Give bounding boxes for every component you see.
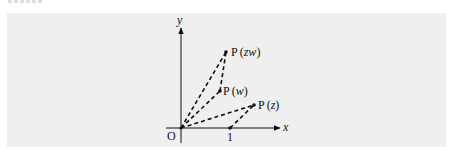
label-pzw: P(zw) bbox=[231, 45, 260, 59]
x-axis-label: x bbox=[282, 120, 289, 134]
point-pw bbox=[218, 89, 222, 93]
point-pzw bbox=[224, 50, 228, 54]
origin-label: O bbox=[167, 129, 176, 143]
point-origin bbox=[179, 126, 182, 129]
y-axis-label: y bbox=[176, 13, 183, 27]
label-pw: P(w) bbox=[223, 84, 248, 98]
point-pz bbox=[252, 103, 256, 107]
complex-multiplication-diagram: y x O 1 P(zw) P(w) P(z) bbox=[0, 0, 453, 163]
unit-tick-label: 1 bbox=[227, 130, 233, 144]
label-pz: P(z) bbox=[258, 98, 279, 112]
